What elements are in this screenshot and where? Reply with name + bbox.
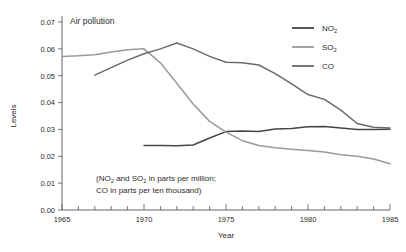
y-tick-label: 0.05 [40,72,55,81]
x-tick-label: 1970 [136,215,153,224]
chart-canvas: 0.000.010.020.030.040.050.060.0719651970… [0,0,406,252]
x-tick-label: 1975 [218,215,235,224]
x-tick-label: 1965 [54,215,71,224]
y-tick-label: 0.02 [40,152,55,161]
y-tick-label: 0.03 [40,125,55,134]
series-line-NO2 [144,126,390,145]
x-axis-title: Year [218,231,235,240]
y-tick-label: 0.04 [40,98,55,107]
legend-label-SO2: SO2 [322,43,337,53]
annotation-line-1: (NO2 and SO2 in parts per million; [96,174,216,184]
legend-label-NO2: NO2 [322,24,337,34]
annotation-line-2: CO in parts per ten thousand) [96,186,202,195]
y-tick-label: 0.00 [40,206,55,215]
series-line-CO [95,43,390,128]
x-tick-label: 1985 [382,215,399,224]
x-tick-label: 1980 [300,215,317,224]
y-axis-title: Levels [9,104,18,127]
y-tick-label: 0.07 [40,18,55,27]
y-tick-label: 0.01 [40,179,55,188]
y-tick-label: 0.06 [40,45,55,54]
chart-title: Air pollution [70,16,115,26]
series-line-SO2 [62,49,390,164]
legend-label-CO: CO [322,62,334,71]
air-pollution-line-chart: 0.000.010.020.030.040.050.060.0719651970… [0,0,406,252]
